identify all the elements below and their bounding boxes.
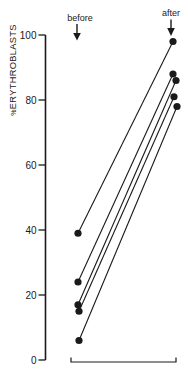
data-point-after — [170, 93, 177, 100]
data-point-after — [169, 38, 176, 45]
data-point-before — [74, 230, 81, 237]
data-point-before — [75, 337, 82, 344]
after-label: after — [162, 8, 180, 18]
pair-line — [78, 74, 173, 282]
y-tick-label: 80 — [25, 95, 37, 106]
y-axis-label: %ERYTHROBLASTS — [8, 24, 18, 115]
erythroblast-slope-chart-svg: 020406080100%ERYTHROBLASTSbeforeafter — [0, 0, 188, 378]
y-tick-label: 40 — [25, 225, 37, 236]
pair-line — [78, 42, 173, 234]
pair-line — [78, 81, 176, 305]
y-tick-label: 60 — [25, 160, 37, 171]
data-point-after — [169, 70, 176, 77]
pair-line — [79, 97, 174, 312]
after-down-arrowhead-icon — [167, 28, 175, 36]
before-after-erythroblast-chart: 020406080100%ERYTHROBLASTSbeforeafter — [0, 0, 188, 378]
data-point-before — [74, 278, 81, 285]
data-point-after — [173, 103, 180, 110]
pair-line — [79, 107, 177, 341]
data-point-before — [75, 308, 82, 315]
before-label: before — [67, 13, 93, 23]
bottom-range-bracket — [71, 358, 176, 363]
y-tick-label: 20 — [25, 290, 37, 301]
y-tick-label: 100 — [20, 30, 37, 41]
data-point-before — [74, 301, 81, 308]
data-point-after — [172, 77, 179, 84]
before-down-arrowhead-icon — [73, 33, 81, 41]
y-tick-label: 0 — [31, 355, 37, 366]
